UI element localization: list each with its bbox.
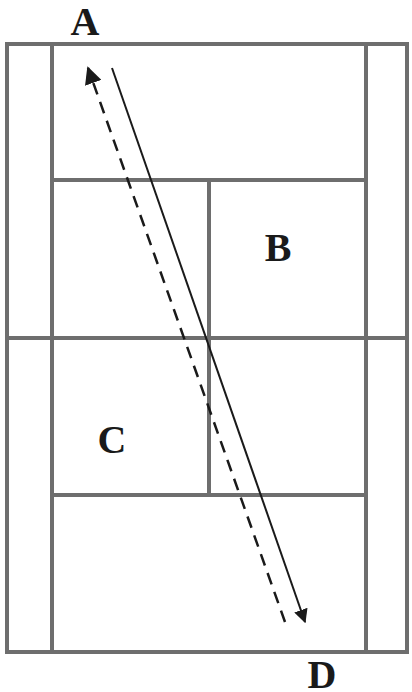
label-b: B (265, 228, 292, 268)
label-c: C (98, 420, 127, 460)
solid-arrow (112, 68, 305, 622)
dashed-arrow (88, 68, 285, 622)
label-a: A (71, 2, 100, 42)
label-d: D (308, 655, 337, 692)
